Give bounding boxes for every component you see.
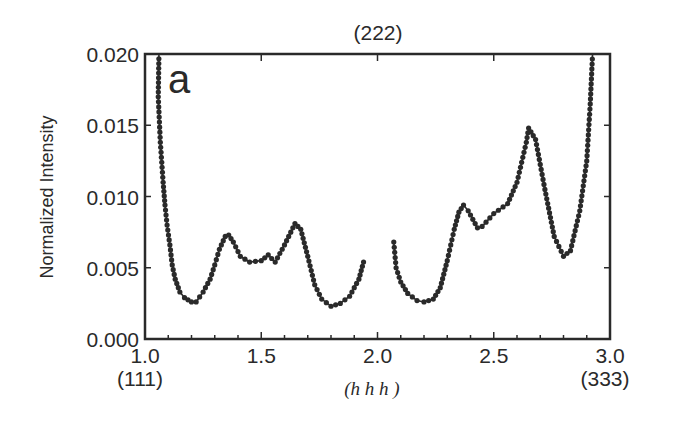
plot-frame [145, 54, 610, 339]
data-point [393, 255, 398, 260]
data-point [538, 162, 543, 167]
data-point [164, 222, 169, 227]
data-point [302, 240, 307, 245]
data-point [587, 117, 592, 122]
data-point [518, 165, 523, 170]
data-point [299, 231, 304, 236]
data-point [156, 104, 161, 109]
data-point [328, 304, 333, 309]
data-point [583, 163, 588, 168]
data-point [568, 248, 573, 253]
data-point [177, 289, 182, 294]
data-point [536, 152, 541, 157]
data-point [554, 239, 559, 244]
data-point [535, 147, 540, 152]
data-point [166, 232, 171, 237]
data-point [587, 106, 592, 111]
data-point [570, 238, 575, 243]
data-point [500, 204, 505, 209]
data-point [159, 165, 164, 170]
data-point [157, 125, 162, 130]
data-point [483, 220, 488, 225]
y-tick-label: 0.010 [86, 186, 139, 209]
data-point [556, 244, 561, 249]
data-point [309, 268, 314, 273]
data-point [517, 170, 522, 175]
data-point [540, 172, 545, 177]
x-axis-title: (h h h ) [344, 378, 399, 400]
data-point [214, 257, 219, 262]
data-point [172, 272, 177, 277]
data-point [589, 76, 594, 81]
data-point [545, 201, 550, 206]
data-point [209, 272, 214, 277]
data-point [161, 180, 166, 185]
data-point [208, 277, 213, 282]
data-point [584, 153, 589, 158]
x-tick-label: 1.5 [247, 344, 276, 367]
data-point [161, 184, 166, 189]
data-point [487, 215, 492, 220]
data-point [391, 240, 396, 245]
data-point [426, 298, 431, 303]
data-point [160, 170, 165, 175]
data-point [303, 245, 308, 250]
data-point [583, 168, 588, 173]
data-point [160, 175, 165, 180]
data-point [304, 249, 309, 254]
data-point [317, 292, 322, 297]
data-point [569, 243, 574, 248]
data-point [158, 135, 163, 140]
data-point [519, 160, 524, 165]
data-point [442, 267, 447, 272]
data-point [169, 257, 174, 262]
data-point [163, 212, 168, 217]
data-point [162, 193, 167, 198]
data-point [440, 276, 445, 281]
data-point [547, 210, 552, 215]
data-point [392, 245, 397, 250]
data-point [552, 234, 557, 239]
data-point [164, 217, 169, 222]
data-point [441, 272, 446, 277]
data-point [581, 178, 586, 183]
data-point [305, 254, 310, 259]
data-point [588, 91, 593, 96]
data-point [156, 94, 161, 99]
data-point [524, 135, 529, 140]
data-point [156, 70, 161, 75]
data-point [443, 263, 448, 268]
data-point [521, 150, 526, 155]
data-point [159, 160, 164, 165]
data-point [235, 249, 240, 254]
data-point [586, 132, 591, 137]
data-point [158, 140, 163, 145]
data-point [307, 263, 312, 268]
data-point [548, 215, 553, 220]
data-point [189, 299, 194, 304]
data-point [559, 249, 564, 254]
data-point [579, 193, 584, 198]
data-point [414, 298, 419, 303]
data-point [589, 66, 594, 71]
data-point [397, 275, 402, 280]
data-point [312, 282, 317, 287]
data-point [445, 258, 450, 263]
data-point [231, 240, 236, 245]
data-point [539, 167, 544, 172]
y-tick-label: 0.005 [86, 257, 139, 280]
data-point [156, 109, 161, 114]
data-point [585, 138, 590, 143]
data-point [156, 61, 161, 66]
data-point [546, 206, 551, 211]
data-point [541, 182, 546, 187]
data-point [156, 80, 161, 85]
x-sub-label: (333) [580, 367, 629, 390]
panel-label: a [168, 57, 191, 101]
data-point [170, 262, 175, 267]
y-axis-title: Normalized Intensity [37, 115, 57, 278]
data-point [579, 198, 584, 203]
data-point [215, 252, 220, 257]
data-point [571, 233, 576, 238]
data-point [301, 236, 306, 241]
